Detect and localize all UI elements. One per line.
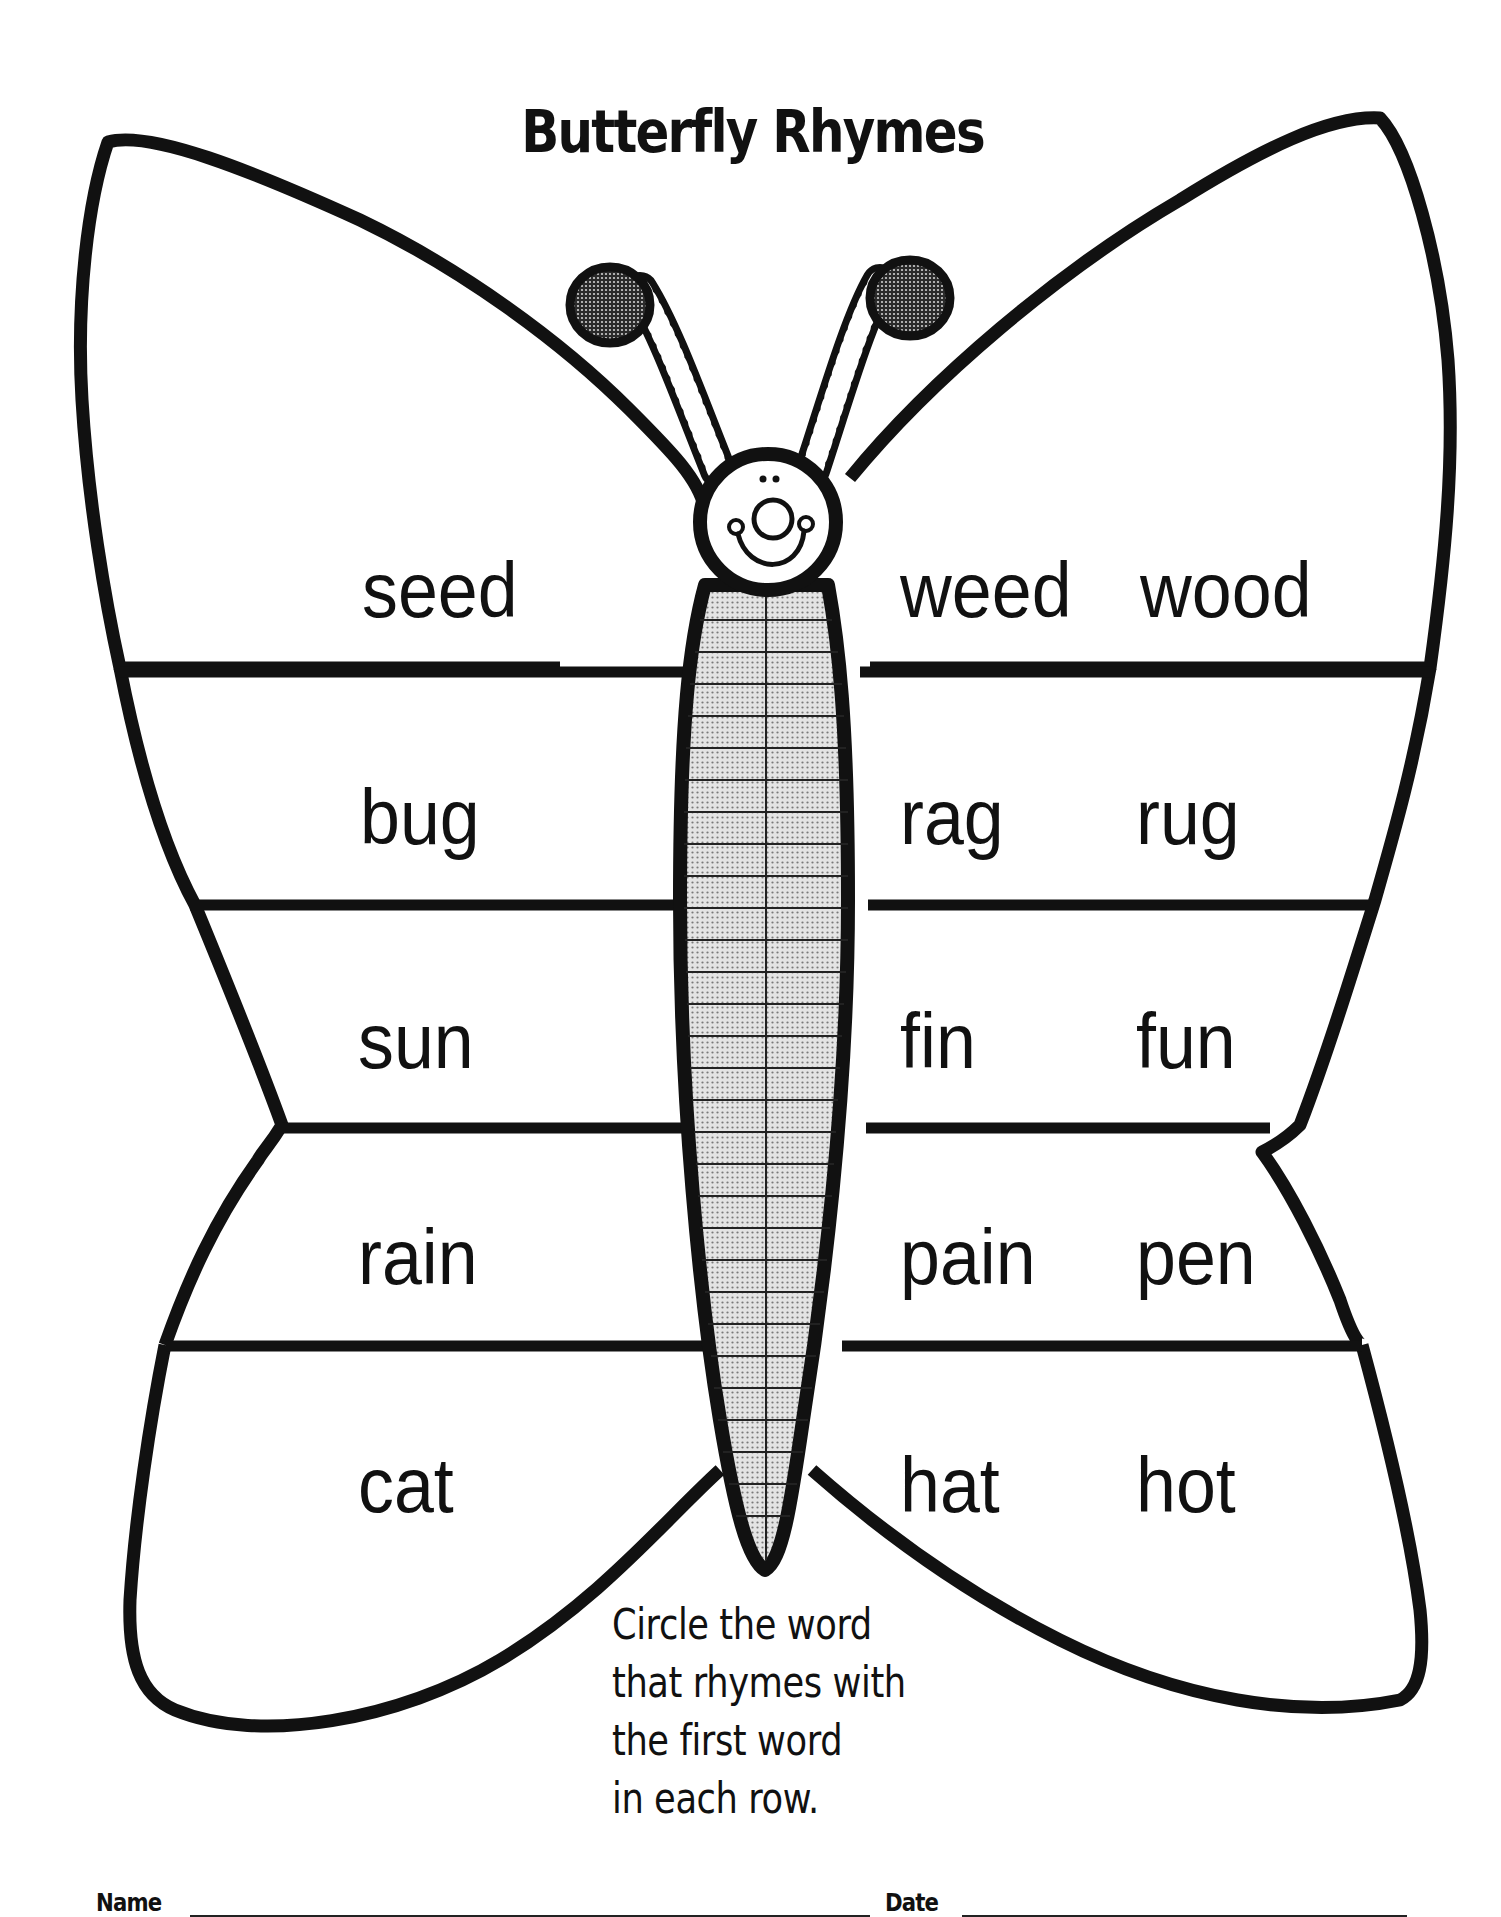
worksheet-title: Butterfly Rhymes [107, 98, 1398, 166]
choice-word-row-2-a[interactable]: rag [900, 778, 1004, 856]
right-wing-side-edge [1262, 668, 1430, 1345]
instructions-line-4: in each row. [612, 1770, 906, 1828]
choice-word-row-1-a[interactable]: weed [900, 551, 1072, 629]
target-word-row-3: sun [358, 1002, 474, 1080]
choice-word-row-5-b[interactable]: hot [1136, 1446, 1236, 1524]
target-word-row-5: cat [358, 1446, 454, 1524]
worksheet-page: Butterfly Rhymes seed weed wood bug rag … [0, 0, 1501, 1917]
choice-word-row-3-a[interactable]: fin [900, 1002, 976, 1080]
choice-word-row-3-b[interactable]: fun [1136, 1002, 1236, 1080]
instructions-line-1: Circle the word [612, 1596, 906, 1654]
date-label: Date [885, 1888, 938, 1917]
instructions: Circle the word that rhymes with the fir… [612, 1596, 906, 1828]
target-word-row-2: bug [360, 778, 480, 856]
left-wing-side-edge [120, 668, 282, 1345]
choice-word-row-5-a[interactable]: hat [900, 1446, 1000, 1524]
choice-word-row-4-a[interactable]: pain [900, 1218, 1036, 1296]
choice-word-row-1-b[interactable]: wood [1140, 551, 1312, 629]
instructions-line-2: that rhymes with [612, 1654, 906, 1712]
name-label: Name [96, 1888, 161, 1917]
target-word-row-4: rain [358, 1218, 478, 1296]
choice-word-row-4-b[interactable]: pen [1136, 1218, 1256, 1296]
instructions-line-3: the first word [612, 1712, 906, 1770]
target-word-row-1: seed [362, 551, 518, 629]
butterfly-body [680, 585, 848, 1570]
choice-word-row-2-b[interactable]: rug [1136, 778, 1240, 856]
butterfly-face [700, 454, 836, 590]
